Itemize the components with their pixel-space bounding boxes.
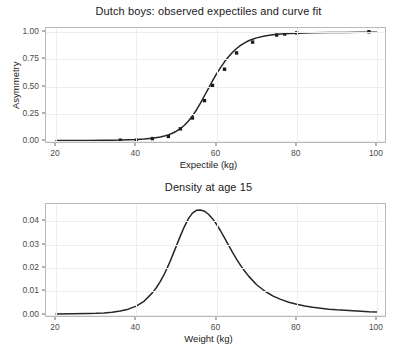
y-tick-mark bbox=[42, 266, 45, 267]
y-tick-label: 0.00 bbox=[22, 309, 39, 319]
x-tick-label: 100 bbox=[369, 148, 383, 158]
x-tick-mark bbox=[135, 143, 136, 146]
x-tick-mark bbox=[215, 143, 216, 146]
x-tick-mark bbox=[375, 143, 376, 146]
x-tick-label: 80 bbox=[291, 148, 300, 158]
y-tick-mark bbox=[42, 112, 45, 113]
y-tick-label: 0.50 bbox=[22, 81, 39, 91]
x-tick-mark bbox=[295, 143, 296, 146]
x-tick-mark bbox=[55, 317, 56, 320]
x-tick-label: 60 bbox=[211, 148, 220, 158]
y-tick-mark bbox=[42, 290, 45, 291]
panel-density-age-15: Density at age 15 0.000.010.020.030.0420… bbox=[0, 176, 417, 353]
y-tick-label: 1.00 bbox=[22, 26, 39, 36]
y-tick-label: 0.75 bbox=[22, 53, 39, 63]
y-tick-label: 0.04 bbox=[22, 215, 39, 225]
x-axis-title-top: Expectile (kg) bbox=[0, 159, 417, 170]
figure-root: Dutch boys: observed expectiles and curv… bbox=[0, 0, 417, 353]
y-tick-mark bbox=[42, 139, 45, 140]
x-tick-label: 80 bbox=[291, 322, 300, 332]
x-tick-mark bbox=[135, 317, 136, 320]
x-tick-label: 60 bbox=[211, 322, 220, 332]
y-tick-mark bbox=[42, 58, 45, 59]
y-tick-mark bbox=[42, 243, 45, 244]
y-tick-mark bbox=[42, 313, 45, 314]
x-tick-mark bbox=[215, 317, 216, 320]
x-axis-title-bottom: Weight (kg) bbox=[0, 333, 417, 344]
x-tick-mark bbox=[375, 317, 376, 320]
x-tick-mark bbox=[55, 143, 56, 146]
y-tick-label: 0.01 bbox=[22, 285, 39, 295]
x-tick-mark bbox=[295, 317, 296, 320]
y-tick-label: 0.03 bbox=[22, 239, 39, 249]
ticks-layer-top: 0.000.250.500.751.0020406080100 bbox=[0, 0, 417, 176]
x-tick-label: 20 bbox=[50, 322, 59, 332]
y-tick-mark bbox=[42, 220, 45, 221]
x-tick-label: 40 bbox=[131, 322, 140, 332]
y-tick-label: 0.25 bbox=[22, 108, 39, 118]
x-tick-label: 20 bbox=[50, 148, 59, 158]
y-tick-label: 0.02 bbox=[22, 262, 39, 272]
ticks-layer-bottom: 0.000.010.020.030.0420406080100 bbox=[0, 176, 417, 353]
y-tick-label: 0.00 bbox=[22, 135, 39, 145]
x-tick-label: 100 bbox=[369, 322, 383, 332]
y-tick-mark bbox=[42, 85, 45, 86]
panel-expectile-curve-fit: Dutch boys: observed expectiles and curv… bbox=[0, 0, 417, 176]
y-tick-mark bbox=[42, 31, 45, 32]
x-tick-label: 40 bbox=[131, 148, 140, 158]
